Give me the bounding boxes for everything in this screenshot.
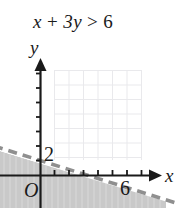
origin-label: O xyxy=(24,180,38,200)
y-intercept-tick-label: 2 xyxy=(44,144,54,164)
title-term-x: x xyxy=(33,11,42,32)
x-axis-label: x xyxy=(165,166,173,185)
y-axis-arrow xyxy=(35,58,47,71)
x-axis-arrow xyxy=(149,170,162,182)
title-relation: > xyxy=(87,11,98,32)
grid-lines xyxy=(54,70,142,160)
y-axis-label: y xyxy=(30,38,38,57)
graph-figure: x+3y>6 y x 2 6 O xyxy=(0,0,181,208)
x-intercept-tick-label: 6 xyxy=(120,178,130,198)
title-rhs: 6 xyxy=(103,11,113,32)
title-term-3y: 3y xyxy=(63,11,82,32)
title-plus: + xyxy=(47,11,58,32)
equation-title: x+3y>6 xyxy=(33,12,113,31)
